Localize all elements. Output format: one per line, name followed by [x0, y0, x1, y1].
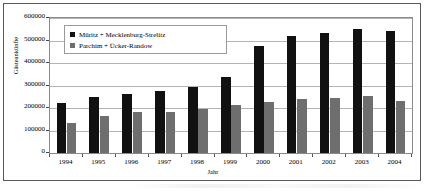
y-axis-tick-label: 300000 [0, 81, 45, 88]
x-axis-tick-mark [82, 154, 83, 157]
bar [297, 99, 307, 153]
bar [133, 112, 143, 153]
x-axis-tick-mark [279, 154, 280, 157]
y-axis-tick-label: 0 [0, 148, 45, 155]
x-axis-tick-mark [49, 154, 50, 157]
x-axis-tick-mark [345, 154, 346, 157]
y-axis-tick-mark [46, 85, 49, 86]
x-axis-tick-mark [312, 154, 313, 157]
y-axis-tick-mark [46, 130, 49, 131]
x-axis-tick-label: 2004 [375, 158, 415, 166]
legend-item-label: Parchim + Ücker-Randow [79, 42, 152, 50]
y-axis-tick-mark [46, 17, 49, 18]
legend-swatch-grey-icon [70, 43, 75, 48]
y-axis-tick-label: 400000 [0, 58, 45, 65]
bar [396, 101, 406, 153]
x-axis-tick-mark [246, 154, 247, 157]
legend-swatch-dark-icon [70, 32, 75, 37]
bar [287, 36, 297, 153]
x-axis-tick-mark [115, 154, 116, 157]
bar [363, 96, 373, 153]
bar [89, 97, 99, 153]
bar [122, 94, 132, 153]
bar [254, 46, 264, 153]
chart-legend: Müritz + Mecklenburg-Strelitz Parchim + … [64, 25, 227, 54]
bar-group [353, 18, 373, 153]
y-axis-tick-label: 500000 [0, 36, 45, 43]
legend-item: Parchim + Ücker-Randow [70, 40, 221, 51]
bar [188, 87, 198, 153]
bar-group [287, 18, 307, 153]
x-axis-title: Jahr [0, 168, 426, 175]
legend-item: Müritz + Mecklenburg-Strelitz [70, 29, 221, 40]
bar [166, 112, 176, 153]
bar [264, 102, 274, 153]
bar [57, 103, 67, 153]
y-axis-tick-label: 200000 [0, 103, 45, 110]
x-axis-tick-mark [214, 154, 215, 157]
chart-page: Gästeankünfte 01000002000003000004000005… [0, 0, 426, 191]
y-axis-tick-mark [46, 107, 49, 108]
bar [198, 109, 208, 153]
x-axis-tick-mark [378, 154, 379, 157]
x-axis-tick-mark [181, 154, 182, 157]
bar [155, 91, 165, 153]
bar-group [386, 18, 406, 153]
bar [231, 105, 241, 153]
bar-group [320, 18, 340, 153]
y-axis-tick-mark [46, 152, 49, 153]
bar [221, 77, 231, 153]
bar-group [254, 18, 274, 153]
bar [67, 123, 77, 153]
bar [386, 31, 396, 153]
bar [330, 98, 340, 153]
y-axis-tick-label: 600000 [0, 13, 45, 20]
y-axis-tick-mark [46, 62, 49, 63]
x-axis-tick-mark [411, 154, 412, 157]
y-axis-tick-mark [46, 40, 49, 41]
page-edge-artifact [132, 184, 422, 188]
bar [353, 29, 363, 153]
bar [320, 33, 330, 153]
y-axis-tick-label: 100000 [0, 126, 45, 133]
bar [100, 116, 110, 153]
x-axis-tick-mark [148, 154, 149, 157]
legend-item-label: Müritz + Mecklenburg-Strelitz [79, 31, 165, 39]
